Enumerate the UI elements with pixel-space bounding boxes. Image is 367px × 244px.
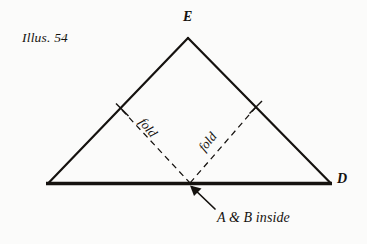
annotation-label: A & B inside: [217, 211, 290, 225]
triangle-left-edge: [48, 38, 188, 184]
vertex-label-e: E: [183, 10, 192, 24]
vertex-label-d: D: [337, 172, 347, 186]
fold-line-left: [122, 110, 190, 183]
figure-page: Illus. 54 E D fold fold A & B inside: [0, 0, 367, 244]
illustration-caption: Illus. 54: [22, 31, 68, 45]
triangle-right-edge: [188, 38, 331, 184]
